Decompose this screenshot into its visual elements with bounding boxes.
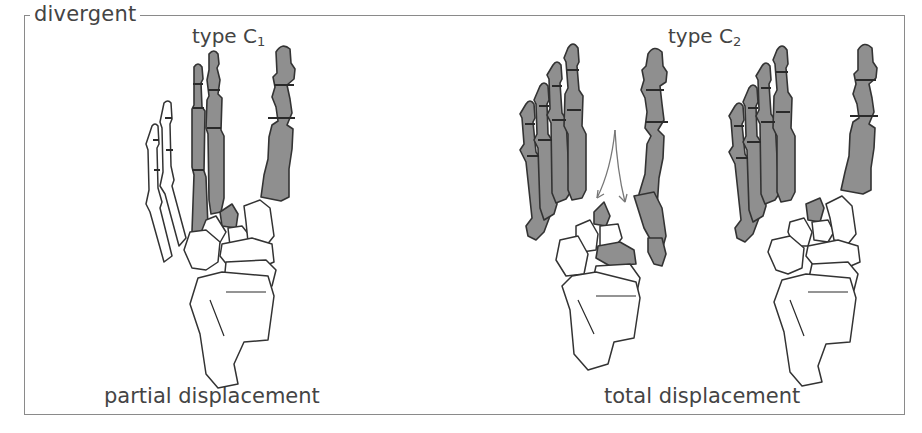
hallux-displaced-2: [841, 44, 878, 194]
foot-total-displacement-with-arrows: [520, 44, 668, 370]
foot-illustrations: [0, 0, 922, 433]
displacement-arrows: [597, 130, 627, 202]
foot-total-displacement: [729, 44, 878, 386]
rays-displaced-lateral: [520, 44, 586, 240]
foot-partial-displacement: [146, 46, 295, 388]
rays-displaced-lateral-2: [729, 46, 795, 242]
hallux-displaced-medial: [634, 48, 668, 266]
rays-displaced: [192, 46, 295, 237]
tarsus-hindfoot-c3: [768, 196, 860, 386]
tarsus-hindfoot-c2: [556, 202, 640, 370]
lateral-rays-intact: [146, 101, 186, 262]
